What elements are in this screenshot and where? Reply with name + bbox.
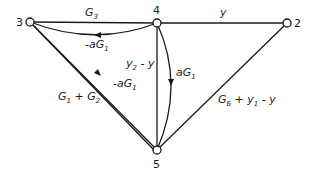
edge-4-5-ag1-curve xyxy=(157,23,171,150)
node-4 xyxy=(153,19,161,27)
edge-label-ag1-curve: aG1 xyxy=(176,66,196,81)
edge-label-neg-ag1-curve: -aG1 xyxy=(85,38,109,53)
edge-label-g3: G3 xyxy=(85,6,98,21)
arrow-down-icon xyxy=(168,79,174,86)
edge-label-g1-plus-g2: G1 + G2 xyxy=(58,90,101,105)
edge-label-y: y xyxy=(219,6,227,19)
node-5 xyxy=(153,146,161,154)
edge-4-3-neg-ag1-curve xyxy=(30,22,157,35)
arrow-diagonal-icon xyxy=(94,69,101,76)
signal-flow-graph: 3 4 2 5 G3 y -aG1 y2 - y aG1 -aG1 G1 + G… xyxy=(0,0,315,176)
node-label-5: 5 xyxy=(153,158,160,171)
edge-label-y2-minus-y: y2 - y xyxy=(125,57,155,72)
node-label-4: 4 xyxy=(153,4,160,17)
node-label-2: 2 xyxy=(294,17,301,30)
node-2 xyxy=(283,19,291,27)
node-label-3: 3 xyxy=(16,16,23,29)
edge-2-5-g6-plus-y1-minus-y xyxy=(157,23,287,150)
edge-label-neg-ag1-diagonal: -aG1 xyxy=(113,77,137,92)
node-3 xyxy=(26,18,34,26)
edge-label-g6-plus-y1-minus-y: G6 + y1 - y xyxy=(218,93,276,108)
edge-3-4-g3 xyxy=(30,22,157,23)
